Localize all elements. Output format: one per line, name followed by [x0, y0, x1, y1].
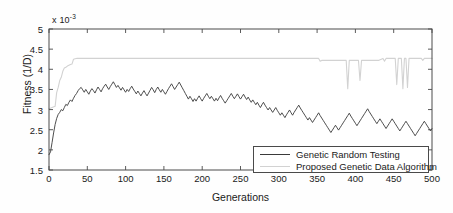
legend-label-proposed-genetic-data-algorithm: Proposed Genetic Data Algorithm: [296, 160, 437, 173]
x-tick-label-50: 50: [82, 173, 93, 184]
x-tick-label-100: 100: [118, 173, 134, 184]
legend-swatch-genetic-random-testing: [260, 154, 290, 155]
x-axis-title: Generations: [49, 191, 432, 203]
figure-canvas: x 10-3 Fitness (1/D) 1.522.533.544.55 05…: [0, 0, 453, 213]
legend-entry-proposed-genetic-data-algorithm[interactable]: Proposed Genetic Data Algorithm: [254, 160, 428, 173]
x-tick-label-0: 0: [46, 173, 51, 184]
x-tick-label-150: 150: [156, 173, 172, 184]
legend-swatch-proposed-genetic-data-algorithm: [260, 166, 290, 167]
x-tick-label-400: 400: [347, 173, 363, 184]
x-tick-label-250: 250: [233, 173, 249, 184]
x-tick-label-200: 200: [194, 173, 210, 184]
x-tick-label-350: 350: [309, 173, 325, 184]
x-tick-label-300: 300: [271, 173, 287, 184]
x-tick-label-500: 500: [424, 173, 440, 184]
x-tick-label-450: 450: [386, 173, 402, 184]
legend[interactable]: Genetic Random Testing Proposed Genetic …: [253, 146, 429, 173]
